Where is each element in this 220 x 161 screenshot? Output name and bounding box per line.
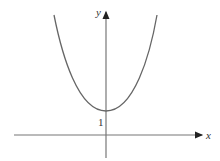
intercept-label: 1 [98, 116, 104, 128]
y-axis-label: y [95, 6, 101, 18]
x-axis-label: x [205, 129, 211, 141]
chart: x y 1 [0, 0, 220, 161]
